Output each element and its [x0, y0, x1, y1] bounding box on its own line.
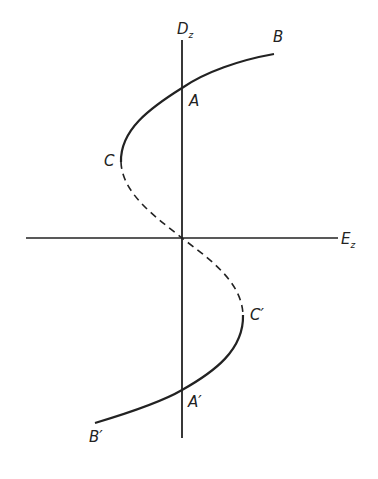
horizontal-axis-label: Ez	[341, 230, 355, 250]
vertical-axis-label: Dz	[177, 20, 194, 40]
point-label-c-prime: C′	[250, 306, 264, 324]
point-label-b-prime: B′	[89, 428, 103, 446]
point-label-a: A	[188, 92, 199, 110]
hysteresis-diagram: Dz Ez B A C C′ A′ B′	[0, 0, 378, 479]
lower-stable-branch	[95, 315, 243, 423]
point-label-c: C	[104, 152, 115, 170]
point-label-a-prime: A′	[187, 393, 202, 411]
point-label-b: B	[273, 28, 283, 46]
